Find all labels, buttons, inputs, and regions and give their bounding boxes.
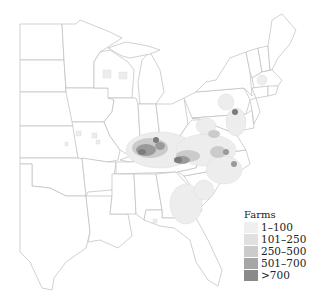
legend-label: 501–700 <box>261 258 306 269</box>
legend-swatch <box>244 270 258 281</box>
map-legend: Farms 1–100 101–250 250–500 501–700 >700 <box>244 209 322 281</box>
legend-label: 250–500 <box>261 246 306 257</box>
legend-item: 250–500 <box>244 245 322 257</box>
legend-swatch <box>244 246 258 257</box>
legend-item: 101–250 <box>244 233 322 245</box>
legend-item: 1–100 <box>244 221 322 233</box>
legend-item: 501–700 <box>244 257 322 269</box>
legend-label: >700 <box>261 270 290 281</box>
legend-swatch <box>244 234 258 245</box>
legend-swatch <box>244 258 258 269</box>
legend-title: Farms <box>244 209 322 220</box>
legend-swatch <box>244 222 258 233</box>
legend-label: 1–100 <box>261 222 293 233</box>
legend-item: >700 <box>244 269 322 281</box>
legend-label: 101–250 <box>261 234 306 245</box>
